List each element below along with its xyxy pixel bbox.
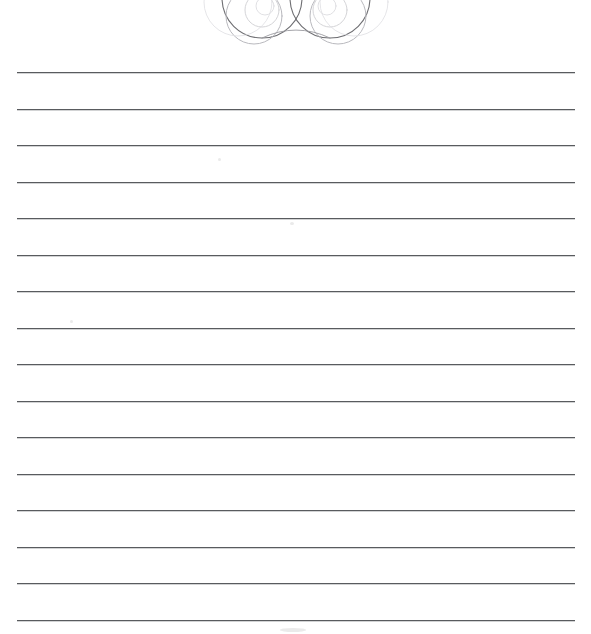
- rule-line-9: [17, 364, 575, 365]
- rule-line-7: [17, 291, 575, 292]
- rule-line-8: [17, 328, 575, 329]
- rule-line-14: [17, 547, 575, 548]
- lined-paper-page: [0, 0, 591, 634]
- rule-line-11: [17, 437, 575, 438]
- rule-line-1: [17, 72, 575, 73]
- rule-line-15: [17, 583, 575, 584]
- rule-line-13: [17, 510, 575, 511]
- rule-line-3: [17, 145, 575, 146]
- rule-line-6: [17, 255, 575, 256]
- rule-line-2: [17, 109, 575, 110]
- rule-line-16: [17, 620, 575, 621]
- ruled-lines-group: [0, 0, 591, 634]
- rule-line-12: [17, 474, 575, 475]
- rule-line-4: [17, 182, 575, 183]
- rule-line-10: [17, 401, 575, 402]
- rule-line-5: [17, 218, 575, 219]
